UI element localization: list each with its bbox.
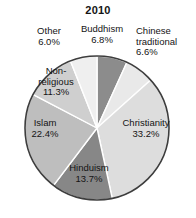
slice-label-other: Other 6.0%: [26, 26, 72, 47]
slice-label-non-religious: Non- religious 11.3%: [30, 66, 82, 98]
slice-label-chinese-traditional: Chinese traditional 6.6%: [136, 26, 194, 58]
slice-label-christianity: Christianity 33.2%: [110, 118, 182, 139]
slice-label-buddhism: Buddhism 6.8%: [74, 24, 130, 45]
pie-chart-figure: 2010 Other 6.0% Buddhism 6.8% Chinese tr…: [0, 0, 196, 218]
slice-label-hinduism: Hinduism 13.7%: [58, 163, 120, 184]
slice-label-islam: Islam 22.4%: [18, 118, 72, 139]
